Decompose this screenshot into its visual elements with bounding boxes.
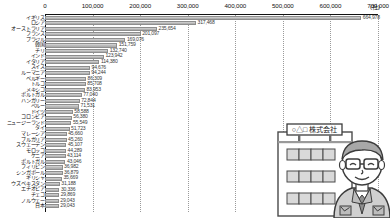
category-label: 日本 xyxy=(35,203,45,209)
bar xyxy=(45,88,85,92)
bar xyxy=(45,199,59,203)
bar xyxy=(45,160,65,164)
bar xyxy=(45,182,60,186)
axis-tick-label: 200,000 xyxy=(129,2,151,9)
bar xyxy=(45,204,59,208)
bar xyxy=(45,143,66,147)
bar xyxy=(45,165,63,169)
bar xyxy=(45,132,67,136)
bar xyxy=(45,149,66,153)
bar xyxy=(45,38,125,42)
bar xyxy=(45,27,157,31)
bar xyxy=(45,154,66,158)
bar xyxy=(45,177,62,181)
bar xyxy=(45,77,86,81)
axis-tick-label: 600,000 xyxy=(320,2,342,9)
bar xyxy=(45,171,63,175)
bar-value-label: 317,468 xyxy=(198,20,215,26)
office-illustration: ○△□ 株式会社 xyxy=(272,122,390,218)
bar xyxy=(45,55,104,59)
axis-tick-label: 0 xyxy=(43,2,46,9)
axis-tick-label: 500,000 xyxy=(272,2,294,9)
bar xyxy=(45,138,67,142)
bar xyxy=(45,188,59,192)
bar-value-label: 201,097 xyxy=(142,31,159,37)
bar xyxy=(45,110,73,114)
bar-value-label: 235,654 xyxy=(159,26,176,32)
bar xyxy=(45,93,82,97)
bar xyxy=(45,82,86,86)
bar xyxy=(45,43,117,47)
axis-unit-label: (社) xyxy=(370,2,380,11)
bar xyxy=(45,66,90,70)
bar xyxy=(45,127,70,131)
bar xyxy=(45,71,90,75)
bar xyxy=(45,121,71,125)
svg-text:○△□ 株式会社: ○△□ 株式会社 xyxy=(292,125,338,134)
chart-x-axis: 0100,000200,000300,000400,000500,000600,… xyxy=(0,0,392,16)
bar xyxy=(45,116,72,120)
bar xyxy=(45,193,59,197)
axis-tick-label: 100,000 xyxy=(82,2,104,9)
bar-value-label: 664,978 xyxy=(363,15,380,21)
bar-chart: 0100,000200,000300,000400,000500,000600,… xyxy=(0,0,392,220)
bar-value-label: 29,043 xyxy=(60,203,74,209)
axis-tick-label: 300,000 xyxy=(177,2,199,9)
axis-tick-label: 400,000 xyxy=(224,2,246,9)
bar xyxy=(45,99,80,103)
bar xyxy=(45,49,108,53)
